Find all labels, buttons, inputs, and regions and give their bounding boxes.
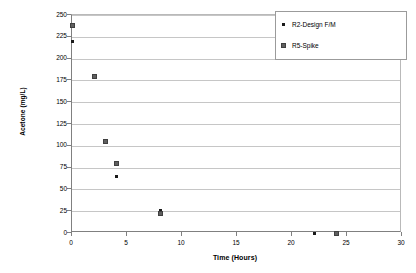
y-axis-title: Acetone (mg/L) xyxy=(19,52,26,172)
legend-label: R5-Spike xyxy=(292,42,319,50)
gridline xyxy=(72,211,400,212)
y-tick-label: 225 xyxy=(7,32,67,39)
y-tick-mark xyxy=(67,167,71,168)
x-tick-label: 30 xyxy=(386,239,416,246)
y-tick-label: 50 xyxy=(7,185,67,192)
gridline xyxy=(72,146,400,147)
gridline xyxy=(72,124,400,125)
gridline xyxy=(72,168,400,169)
legend-label: R2-Design F/M xyxy=(292,21,336,29)
y-tick-label: 125 xyxy=(7,120,67,127)
x-tick-mark xyxy=(346,232,347,236)
y-tick-mark xyxy=(67,145,71,146)
x-tick-label: 25 xyxy=(331,239,361,246)
data-point xyxy=(334,231,339,236)
data-point xyxy=(115,175,118,178)
y-tick-label: 250 xyxy=(7,11,67,18)
x-tick-mark xyxy=(181,232,182,236)
data-point xyxy=(114,161,119,166)
y-tick-mark xyxy=(67,123,71,124)
x-tick-label: 0 xyxy=(56,239,86,246)
x-axis-title: Time (Hours) xyxy=(70,254,400,261)
data-point xyxy=(313,232,316,235)
y-tick-mark xyxy=(67,79,71,80)
square-marker-icon xyxy=(281,43,286,48)
data-point xyxy=(70,23,75,28)
y-tick-label: 175 xyxy=(7,76,67,83)
data-point xyxy=(103,139,108,144)
data-point xyxy=(71,40,74,43)
y-tick-label: 75 xyxy=(7,163,67,170)
x-tick-label: 10 xyxy=(166,239,196,246)
gridline xyxy=(72,189,400,190)
y-tick-label: 200 xyxy=(7,54,67,61)
x-tick-mark xyxy=(236,232,237,236)
y-tick-mark xyxy=(67,188,71,189)
x-tick-label: 20 xyxy=(276,239,306,246)
data-point xyxy=(92,74,97,79)
x-tick-label: 5 xyxy=(111,239,141,246)
gridline xyxy=(72,80,400,81)
y-tick-label: 25 xyxy=(7,207,67,214)
y-tick-mark xyxy=(67,58,71,59)
scatter-chart: Acetone (mg/L) 0255075100125150175200225… xyxy=(0,0,416,273)
x-tick-mark xyxy=(401,232,402,236)
chart-legend: R2-Design F/MR5-Spike xyxy=(275,11,407,60)
gridline xyxy=(72,102,400,103)
y-tick-label: 100 xyxy=(7,141,67,148)
x-tick-mark xyxy=(71,232,72,236)
x-tick-mark xyxy=(291,232,292,236)
diamond-marker-icon xyxy=(282,23,285,26)
y-tick-mark xyxy=(67,36,71,37)
x-tick-mark xyxy=(126,232,127,236)
y-tick-mark xyxy=(67,14,71,15)
y-tick-label: 0 xyxy=(7,229,67,236)
data-point xyxy=(158,211,163,216)
x-tick-label: 15 xyxy=(221,239,251,246)
y-tick-label: 150 xyxy=(7,98,67,105)
y-tick-mark xyxy=(67,210,71,211)
y-tick-mark xyxy=(67,101,71,102)
